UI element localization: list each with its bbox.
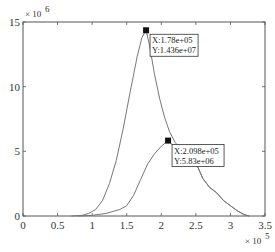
x-tick-label: 3 xyxy=(228,219,234,231)
datatip-y-value: Y:5.83e+06 xyxy=(174,156,214,166)
datatip-x-value: X:2.098e+05 xyxy=(174,146,219,156)
x-axis-multiplier-exponent: 5 xyxy=(265,231,270,241)
y-tick-label: 0 xyxy=(15,210,21,222)
y-axis-multiplier: × 10 xyxy=(25,9,42,19)
y-axis-multiplier-exponent: 6 xyxy=(45,4,50,14)
line-chart: 00.511.522.533.5 051015 × 10 6 × 10 5 X:… xyxy=(0,0,275,252)
x-tick-label: 1 xyxy=(89,219,95,231)
y-tick-label: 10 xyxy=(9,81,21,93)
x-tick-label: 2.5 xyxy=(189,219,203,231)
y-tick-label: 15 xyxy=(9,16,21,28)
x-tick-label: 1.5 xyxy=(120,219,134,231)
x-axis-multiplier: × 10 xyxy=(245,236,262,246)
datatip-y-value: Y:1.436e+07 xyxy=(152,45,196,55)
datatip-x-value: X:1.78e+05 xyxy=(152,35,192,45)
datatip-marker[interactable] xyxy=(143,27,149,33)
x-tick-label: 3.5 xyxy=(258,219,272,231)
y-tick-label: 5 xyxy=(15,145,21,157)
x-tick-label: 0 xyxy=(20,219,26,231)
datatip-marker[interactable] xyxy=(165,138,171,144)
plot-area xyxy=(23,22,265,216)
x-tick-label: 0.5 xyxy=(51,219,65,231)
x-tick-label: 2 xyxy=(159,219,165,231)
